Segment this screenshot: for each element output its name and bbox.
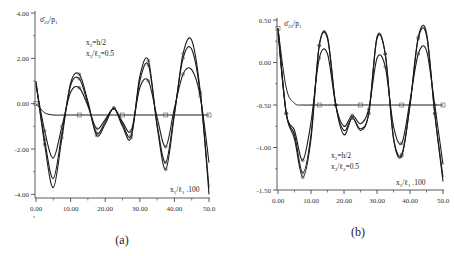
x-tick-label: 40.00 xyxy=(402,197,418,205)
x-tick-label: 0.00 xyxy=(30,205,43,213)
y-tick-label: 2.00 xyxy=(17,55,30,63)
annotation-x3: x3/ℓ3=0.5 xyxy=(331,162,359,172)
x-tick-label: 40.00 xyxy=(167,205,183,213)
y-tick-label: -2.00 xyxy=(14,146,29,154)
series-line xyxy=(278,28,443,178)
x-tick-label: 20.00 xyxy=(97,205,113,213)
x-tick-label: 20.00 xyxy=(336,197,352,205)
caption-a: (a) xyxy=(115,233,128,247)
annotation-x3: x3/ℓ3=0.5 xyxy=(86,49,114,59)
y-tick-label: 0.50 xyxy=(259,17,272,25)
chart-b: 0.500.00-0.50-1.00-1.500.0010.0020.0030.… xyxy=(256,17,449,206)
y-tick-label: -1.50 xyxy=(256,187,271,195)
x-axis-label: x1/ℓ1 .100 xyxy=(170,185,200,195)
chart-a: 4.002.000.00-2.00-4.000.0010.0020.0030.0… xyxy=(14,10,215,218)
x-tick-label: 50.0 xyxy=(437,197,450,205)
x-tick-label: 10.00 xyxy=(303,197,319,205)
x-tick-label: 30.00 xyxy=(132,205,148,213)
annotation-x2: x2=h/2 xyxy=(331,151,351,161)
y-tick-label: -0.50 xyxy=(256,102,271,110)
series-line xyxy=(36,38,209,194)
x-tick-label: 30.00 xyxy=(369,197,385,205)
y-tick-label: 0.00 xyxy=(259,59,272,67)
annotation-x2: x2=h/2 xyxy=(86,38,106,48)
y-tick-label: 4.00 xyxy=(17,10,30,18)
x-tick-label: 0.00 xyxy=(272,197,285,205)
y-axis-label: σ̄22/p1 xyxy=(40,15,58,25)
series-line xyxy=(278,25,443,181)
y-tick-label: 0.00 xyxy=(17,100,30,108)
y-axis-label: σ̄22/p1 xyxy=(284,19,302,29)
y-tick-label: -4.00 xyxy=(14,191,29,199)
caption-b: (b) xyxy=(351,225,365,239)
x-axis-label: x1/ℓ1 .100 xyxy=(396,178,426,188)
x-tick-label: 50.0 xyxy=(203,205,216,213)
y-tick-label: -1.00 xyxy=(256,144,271,152)
x-tick-label: 10.00 xyxy=(63,205,79,213)
figure: 4.002.000.00-2.00-4.000.0010.0020.0030.0… xyxy=(0,0,454,256)
series-line xyxy=(36,104,209,116)
